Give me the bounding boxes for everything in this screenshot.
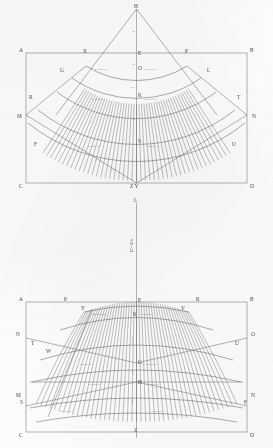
label-F-upper: F (34, 141, 37, 147)
label-apex-H: H (134, 3, 138, 9)
label-N-upper: N (252, 113, 256, 119)
lower-meridian-line (148, 303, 159, 422)
label-O-upper: O (138, 65, 142, 71)
label-B-upper: B (250, 47, 254, 53)
label-W-lower: W (46, 348, 52, 354)
label-G-lower: G (138, 359, 142, 365)
lower-arc-text-right-2: 1 2 3 4 5 6 7 8 (146, 383, 159, 385)
lower-meridian-line (41, 311, 87, 405)
chord-left-upper (26, 66, 86, 115)
lower-meridian-line (153, 303, 168, 420)
upper-generator-line (166, 99, 190, 172)
lower-meridian-line (182, 309, 223, 408)
label-D-upper: D (250, 183, 254, 189)
label-Z-lower: Z (134, 427, 137, 433)
label-C-lower: C (19, 432, 23, 438)
label-Y-lower: Y (81, 305, 85, 311)
label-M-upper: M (17, 113, 22, 119)
label-G-upper: G (60, 67, 64, 73)
annotation-k-von-theile: K von Theile (140, 313, 154, 316)
label-A-lower: A (19, 296, 23, 302)
upper-arc-text-left: 8 7 6 5 4 3 2 1 (95, 68, 108, 70)
upper-arc-text-left-3: 8 7 6 5 4 3 2 1 (88, 145, 101, 147)
lower-center-tick-nz0: NZ = 0 (131, 336, 134, 344)
lower-arc-text-left-2: 8 7 6 5 4 3 2 1 (88, 383, 101, 385)
lower-meridian-line (68, 307, 101, 414)
upper-arc-text-right: 1 2 3 4 5 6 7 8 (144, 68, 157, 70)
label-S-upper: S (138, 138, 141, 144)
upper-generator-line (43, 89, 85, 154)
label-O-lower: O (251, 331, 255, 337)
lower-meridian-line (123, 302, 130, 421)
upper-generator-line (83, 99, 107, 172)
plate-svg: H A B C D M N X P G L R T F U E O K S Z … (0, 0, 273, 448)
lower-meridian-line (54, 309, 93, 410)
label-V-lower: V (181, 305, 185, 311)
upper-generator-line (188, 89, 230, 154)
lower-arc-text-left-3: 8 7 6 5 4 3 2 1 (60, 410, 73, 412)
upper-arc-text-right-2: 1 2 3 4 5 6 7 8 (144, 98, 157, 100)
lower-arc-text-left: 8 7 6 5 4 3 2 1 (80, 363, 93, 365)
label-U-upper: U (232, 141, 236, 147)
label-K-upper: K (138, 92, 142, 98)
upper-center-tick-ST: ST (131, 86, 134, 89)
label-H-lower: H (138, 379, 142, 385)
upper-generator-line (154, 102, 168, 178)
label-F-lower: F (244, 399, 247, 405)
label-P-upper: P (185, 48, 188, 54)
upper-arc-text-right-3: 1 2 3 4 5 6 7 8 (146, 145, 159, 147)
label-M-lower: M (16, 392, 21, 398)
label-ZY-upper: Z Y (130, 183, 138, 189)
lower-meridian-line (36, 312, 84, 404)
lower-meridian-line (114, 303, 125, 422)
label-X-upper: X (83, 48, 87, 54)
lower-meridian-line (151, 303, 164, 421)
label-C-upper: C (19, 183, 23, 189)
label-L-upper: L (207, 67, 210, 73)
label-R-lower: R (196, 296, 200, 302)
lower-figure (26, 203, 247, 438)
upper-generator-line (177, 95, 210, 164)
lower-meridian-line (189, 312, 237, 404)
label-P-lower: P (64, 296, 67, 302)
label-U-lower: U (235, 340, 239, 346)
label-N-lower-upper: N (16, 331, 20, 337)
upper-generator-line (132, 104, 134, 181)
lower-meridian-line (165, 305, 191, 417)
label-L-lower: L (134, 197, 137, 203)
drawing-plate: H A B C D M N X P G L R T F U E O K S Z … (0, 0, 273, 448)
label-vertical-dimension: LT = 18 ft (130, 239, 134, 252)
lower-meridian-line (187, 311, 233, 405)
upper-generator-line (62, 95, 95, 164)
lower-meridian-lines (36, 302, 237, 422)
label-B-lower: B (250, 296, 254, 302)
label-T-lower: T (31, 340, 35, 346)
lower-meridian-line (50, 309, 91, 408)
lower-arc-text-right: 1 2 3 4 5 6 7 8 (144, 363, 157, 365)
label-S-lower: S (20, 399, 23, 405)
label-R-upper: R (29, 94, 33, 100)
upper-generator-line (182, 92, 219, 160)
upper-generator-line (54, 92, 91, 160)
lower-meridian-line (179, 309, 218, 410)
upper-generator-line (71, 97, 100, 168)
upper-arc-text-left-2: 8 7 6 5 4 3 2 1 (92, 98, 105, 100)
upper-figure (26, 9, 247, 183)
upper-center-tick-14: 14 (132, 30, 135, 33)
lower-center-tick-nfdl: Nfdl (131, 399, 134, 404)
upper-generator-line (105, 102, 119, 178)
annotation-parallel: Parallel Theile (92, 313, 107, 316)
upper-arc-text-bottom: 4 3 2 1 (110, 168, 116, 170)
upper-generator-line (173, 97, 202, 168)
lower-meridian-line (144, 302, 151, 421)
lower-meridian-line (156, 303, 173, 419)
label-D-lower: D (250, 432, 254, 438)
lower-center-tick-nz: NZ (131, 370, 134, 374)
lower-meridian-line (100, 303, 117, 419)
label-N-lower-lower: N (251, 392, 255, 398)
lower-meridian-line (109, 303, 122, 421)
lower-arc-text-right-3: 1 2 3 4 5 6 7 8 (150, 410, 163, 412)
lower-meridian-line (172, 307, 205, 414)
upper-center-tick-18: 18 (132, 63, 135, 66)
lower-meridian-line (105, 303, 120, 420)
